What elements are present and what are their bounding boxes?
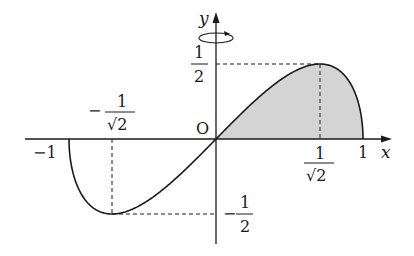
svg-text:√2: √2 xyxy=(107,115,127,134)
label-y-half: 1 2 xyxy=(191,43,208,86)
origin-label: O xyxy=(196,119,209,138)
svg-text:1: 1 xyxy=(117,92,127,111)
y-axis-label: y xyxy=(198,8,209,28)
label-y-neg-half: − 1 2 xyxy=(223,193,253,236)
svg-text:1: 1 xyxy=(194,43,204,62)
svg-text:√2: √2 xyxy=(306,166,326,185)
label-x-pos-one: 1 xyxy=(358,143,368,162)
svg-text:1: 1 xyxy=(315,144,325,163)
label-x-neg-one: −1 xyxy=(33,143,57,162)
y-axis-arrow-icon xyxy=(213,12,220,23)
label-x-neg-inv-sqrt2: − 1 √2 xyxy=(88,92,135,134)
svg-text:1: 1 xyxy=(240,193,250,212)
function-graph: y x O 1 2 − 1 2 − 1 √2 1 √2 1 −1 xyxy=(0,0,414,256)
svg-text:2: 2 xyxy=(194,67,204,86)
x-axis-label: x xyxy=(381,142,391,162)
svg-text:−: − xyxy=(223,204,236,223)
shaded-region xyxy=(216,64,363,139)
label-x-pos-inv-sqrt2: 1 √2 xyxy=(304,144,334,185)
svg-text:2: 2 xyxy=(240,217,250,236)
svg-text:−: − xyxy=(88,101,101,120)
